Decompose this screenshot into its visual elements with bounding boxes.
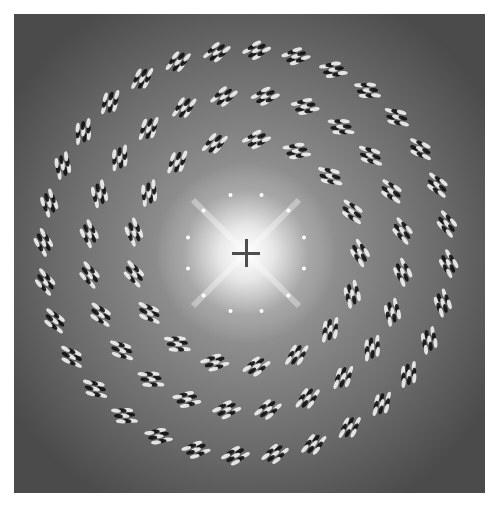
diffraction-pattern <box>14 14 485 493</box>
diffraction-image <box>14 14 485 493</box>
